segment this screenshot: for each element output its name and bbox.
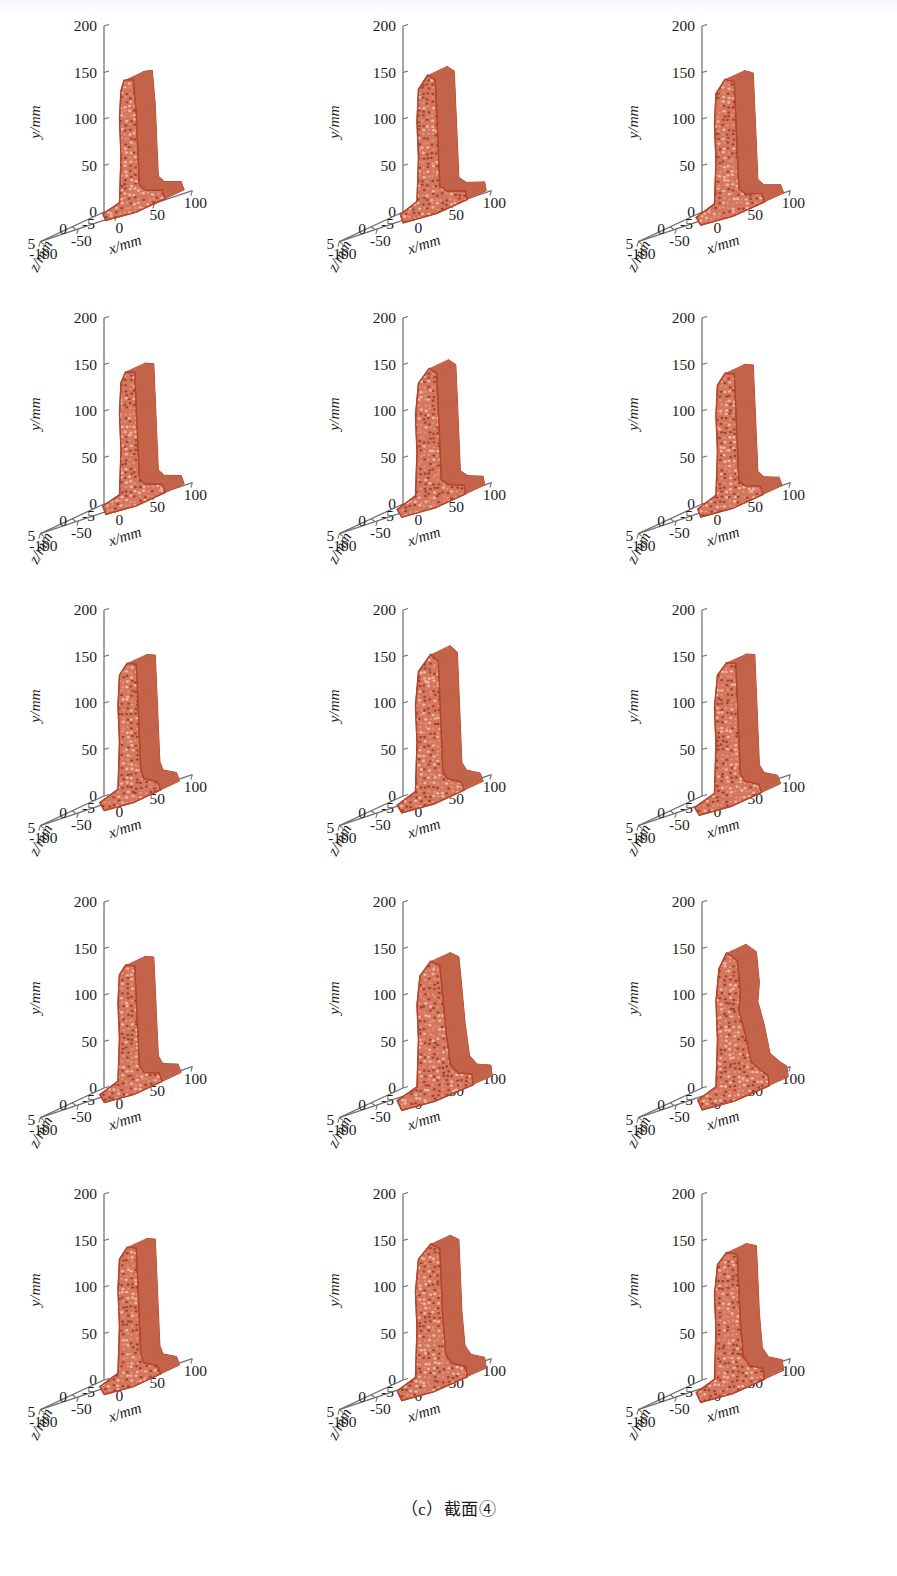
y-tick-mark (104, 1239, 109, 1241)
y-tick-mark (702, 164, 707, 166)
x-axis-label: x/mm (105, 1107, 143, 1134)
z-tick-label: 0 (657, 220, 665, 237)
y-tick-label: 200 (672, 17, 696, 34)
y-tick-label: 200 (74, 1185, 98, 1202)
z-tick-label: -5 (82, 215, 95, 232)
y-tick-label: 50 (82, 1033, 98, 1050)
y-tick-mark (104, 456, 109, 458)
y-axis-label: y/mm (624, 397, 641, 433)
y-tick-mark (104, 164, 109, 166)
y-tick-label: 150 (672, 1232, 696, 1249)
y-tick-mark (403, 608, 408, 610)
z-tick-label: 0 (59, 1388, 67, 1405)
y-tick-mark (104, 993, 109, 995)
y-axis-label: y/mm (624, 1273, 641, 1309)
cross-section-mesh (97, 1238, 180, 1394)
y-tick-label: 200 (672, 309, 696, 326)
y-tick-mark (104, 608, 109, 610)
plot-panel: 200150100500y/mm-100-50050100x/mm05-5z/m… (0, 1184, 299, 1476)
y-tick-mark (104, 748, 109, 750)
z-tick-label: 0 (358, 512, 366, 529)
y-tick-label: 200 (74, 893, 98, 910)
y-axis-label: y/mm (325, 1273, 342, 1309)
y-tick-mark (403, 1040, 408, 1042)
z-tick-label: -5 (680, 1091, 693, 1108)
z-tick-label: -5 (82, 507, 95, 524)
scan-artifact (0, 0, 897, 14)
cross-section-mesh (694, 1244, 784, 1403)
y-tick-label: 100 (672, 694, 696, 711)
z-tick-label: -5 (680, 215, 693, 232)
cross-section-mesh (394, 360, 484, 518)
y-tick-label: 200 (672, 601, 696, 618)
z-tick-mark (371, 811, 375, 814)
y-tick-label: 200 (672, 1185, 696, 1202)
y-tick-mark (702, 794, 707, 796)
y-tick-mark (702, 1332, 707, 1334)
y-axis-label: y/mm (325, 397, 342, 433)
z-tick-label: -5 (680, 507, 693, 524)
y-tick-label: 50 (680, 741, 696, 758)
y-tick-label: 50 (680, 1033, 696, 1050)
x-tick-label: 100 (483, 194, 507, 211)
z-tick-mark (371, 1395, 375, 1398)
y-tick-mark (702, 1192, 707, 1194)
y-tick-mark (403, 947, 408, 949)
x-tick-label: 50 (150, 498, 166, 515)
y-axis-label: y/mm (26, 397, 43, 433)
plot-panel: 200150100500y/mm-100-50050100x/mm05-5z/m… (598, 16, 897, 308)
z-tick-mark (72, 811, 76, 814)
y-tick-mark (403, 1332, 408, 1334)
y-tick-mark (702, 993, 707, 995)
z-tick-mark (72, 1103, 76, 1106)
z-tick-label: -5 (680, 1383, 693, 1400)
y-tick-label: 100 (74, 986, 98, 1003)
y-tick-label: 50 (82, 741, 98, 758)
y-tick-label: 150 (74, 1232, 98, 1249)
y-tick-label: 50 (82, 449, 98, 466)
y-tick-mark (403, 409, 408, 411)
y-axis-label: y/mm (26, 1273, 43, 1309)
y-tick-label: 200 (373, 1185, 397, 1202)
y-tick-mark (403, 1285, 408, 1287)
y-axis-label: y/mm (624, 105, 641, 141)
cross-section-mesh (695, 944, 788, 1111)
x-axis-label: x/mm (105, 231, 143, 258)
z-tick-label: 0 (657, 512, 665, 529)
x-tick-label: -50 (71, 1108, 92, 1125)
y-tick-label: 200 (373, 601, 397, 618)
x-tick-label: 100 (782, 486, 806, 503)
y-tick-label: 100 (373, 402, 397, 419)
y-tick-mark (702, 655, 707, 657)
y-tick-mark (702, 24, 707, 26)
y-tick-label: 150 (74, 64, 98, 81)
z-tick-mark (72, 519, 76, 522)
y-tick-mark (702, 1086, 707, 1088)
x-tick-label: 100 (782, 778, 806, 795)
plot-panel: 200150100500y/mm-100-50050100x/mm05-5z/m… (598, 308, 897, 600)
x-tick-label: -50 (669, 816, 690, 833)
y-axis-label: y/mm (26, 105, 43, 141)
y-tick-label: 50 (381, 741, 397, 758)
y-tick-mark (702, 71, 707, 73)
z-tick-label: 0 (358, 804, 366, 821)
y-tick-label: 100 (672, 402, 696, 419)
z-tick-mark (371, 519, 375, 522)
y-tick-mark (403, 1192, 408, 1194)
x-tick-label: 100 (782, 194, 806, 211)
z-tick-mark (670, 1395, 674, 1398)
y-tick-mark (403, 363, 408, 365)
z-tick-label: 0 (657, 1388, 665, 1405)
y-tick-label: 150 (672, 64, 696, 81)
x-axis-label: x/mm (703, 1107, 741, 1134)
plot-panel: 200150100500y/mm-100-50050100x/mm05-5z/m… (0, 308, 299, 600)
y-tick-label: 100 (672, 110, 696, 127)
y-tick-mark (702, 1040, 707, 1042)
cross-section-mesh (97, 956, 181, 1102)
z-tick-label: -5 (82, 799, 95, 816)
cross-section-mesh (695, 364, 782, 518)
y-tick-mark (104, 1332, 109, 1334)
z-tick-mark (371, 1103, 375, 1106)
cross-section-mesh (97, 654, 180, 810)
y-tick-label: 200 (373, 17, 397, 34)
